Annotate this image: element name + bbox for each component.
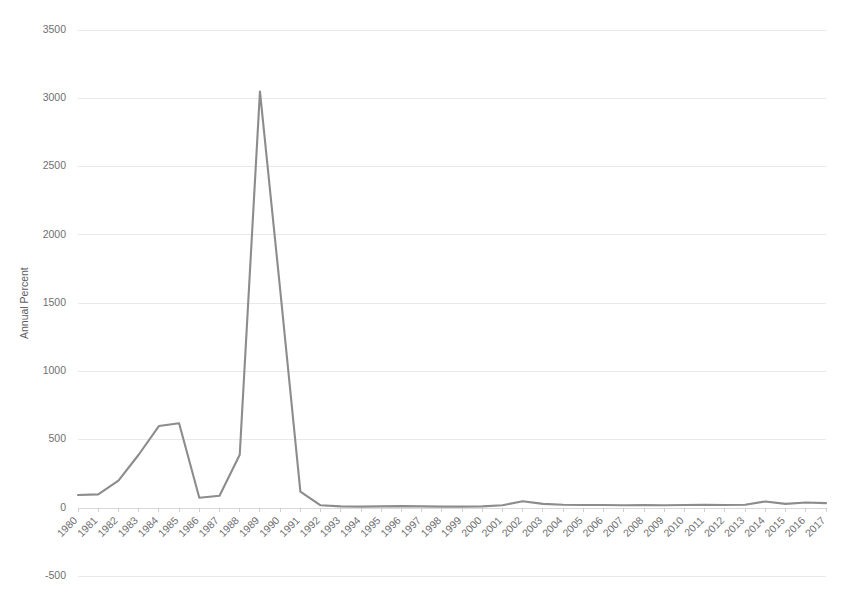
- x-axis-tick-label: 2017: [802, 514, 827, 539]
- x-axis-tick-label: 2004: [540, 514, 565, 539]
- x-axis-tick-label: 2010: [661, 514, 686, 539]
- x-axis-tick-label: 1985: [155, 514, 180, 539]
- x-axis-tick-label: 2011: [682, 514, 707, 539]
- x-axis-tick-label: 1982: [95, 514, 120, 539]
- x-axis-tick-label: 1988: [216, 514, 241, 539]
- x-axis-tick-label: 2016: [782, 514, 807, 539]
- line-chart: 3500300025002000150010005000-500 1980198…: [0, 0, 850, 604]
- x-axis-tick-label: 1999: [439, 514, 464, 539]
- x-axis-tick-label: 1989: [236, 514, 261, 539]
- x-axis-tick-label: 1981: [75, 514, 100, 539]
- gridlines: [78, 30, 826, 576]
- x-axis-tick-label: 1997: [398, 514, 423, 539]
- y-axis-tick-label: 2500: [43, 159, 67, 171]
- x-axis-tick-label: 2003: [519, 514, 544, 539]
- x-axis-tick-label: 1998: [418, 514, 443, 539]
- x-axis-tick-marks: [78, 508, 826, 512]
- y-axis-title: Annual Percent: [18, 267, 30, 339]
- y-axis-tick-label: 500: [48, 432, 66, 444]
- x-axis-tick-label: 2015: [762, 514, 787, 539]
- x-axis-tick-label: 2012: [701, 514, 726, 539]
- x-axis-tick-label: 2001: [479, 514, 504, 539]
- y-axis-tick-label: 0: [60, 501, 66, 513]
- x-axis-tick-label: 2008: [620, 514, 645, 539]
- x-axis-tick-label: 1990: [257, 514, 282, 539]
- x-axis-tick-label: 2013: [722, 514, 747, 539]
- x-axis-tick-label: 1987: [196, 514, 221, 539]
- x-axis-tick-label: 1980: [54, 514, 79, 539]
- series-line: [78, 91, 826, 506]
- x-axis-tick-label: 1995: [358, 514, 383, 539]
- chart-page: 3500300025002000150010005000-500 1980198…: [0, 0, 850, 604]
- data-series-annual-percent: [78, 91, 826, 506]
- x-axis-tick-label: 1996: [378, 514, 403, 539]
- y-axis-tick-label: 1000: [43, 364, 67, 376]
- x-axis-tick-label: 2000: [459, 514, 484, 539]
- x-axis-tick-label: 1992: [297, 514, 322, 539]
- y-axis-title: Annual Percent: [18, 267, 30, 339]
- y-axis-tick-labels: 3500300025002000150010005000-500: [43, 23, 67, 581]
- x-axis-tick-label: 1994: [337, 514, 362, 539]
- x-axis-tick-label: 2002: [499, 514, 524, 539]
- y-axis-tick-label: 3500: [43, 23, 67, 35]
- y-axis-tick-label: 1500: [43, 296, 67, 308]
- y-axis-tick-label: -500: [45, 569, 66, 581]
- chart-canvas: 3500300025002000150010005000-500 1980198…: [0, 0, 850, 604]
- x-axis-tick-label: 2009: [641, 514, 666, 539]
- x-axis-tick-label: 2014: [742, 514, 767, 539]
- y-axis-tick-label: 2000: [43, 228, 67, 240]
- x-axis-tick-label: 1986: [176, 514, 201, 539]
- x-axis-tick-label: 2007: [600, 514, 625, 539]
- x-axis-tick-label: 1984: [135, 514, 160, 539]
- x-axis-tick-labels: 1980198119821983198419851986198719881989…: [54, 514, 827, 539]
- x-axis-tick-label: 1993: [317, 514, 342, 539]
- y-axis-tick-label: 3000: [43, 91, 67, 103]
- x-axis-tick-label: 1983: [115, 514, 140, 539]
- x-axis-tick-label: 2005: [560, 514, 585, 539]
- x-axis-tick-label: 1991: [277, 514, 302, 539]
- x-axis-tick-label: 2006: [580, 514, 605, 539]
